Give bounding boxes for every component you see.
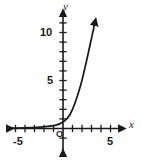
exponential-graph-figure: 10 5 -5 5 O x y <box>0 0 141 161</box>
y-tick-label-10: 10 <box>40 27 52 38</box>
x-tick-label-neg5: -5 <box>13 136 23 147</box>
y-tick-label-5: 5 <box>47 75 53 86</box>
x-axis-label: x <box>129 119 134 130</box>
y-axis-label: y <box>63 1 68 12</box>
origin-label: O <box>56 130 63 139</box>
x-tick-label-5: 5 <box>107 136 113 147</box>
